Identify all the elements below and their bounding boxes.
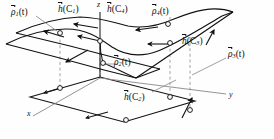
marker-rho1-base [58,86,63,91]
marker-rho1-upper [58,31,63,36]
axis-label-z: z [97,1,100,9]
y-axis-line [100,78,226,94]
label-rho-4: ρ4(t) [152,7,169,17]
x-axis-line [33,78,100,116]
marker-rho3-base [188,108,193,113]
leader-rho-1 [36,16,57,31]
label-h-c1: h(C1) [58,5,79,15]
label-h-c4: h(C4) [107,5,128,15]
axis-label-y: y [229,91,233,99]
diagram-canvas [0,0,274,139]
axis-label-x: x [27,110,31,118]
arrow-diagonal-down [66,50,88,62]
label-rho-3: ρ3(t) [228,50,245,60]
marker-center-upper [98,39,103,44]
label-h-c3: h(C3) [182,37,203,47]
label-h-c2: h(C2) [124,93,145,103]
marker-base-front [124,118,129,123]
label-rho-1: ρ1(t) [11,8,28,18]
marker-rho4-mid [168,41,173,46]
marker-rho3-mid [168,95,173,100]
upper-surface-curves [6,9,233,55]
arrow-h-c3 [206,30,214,45]
label-rho-2: ρ2(t) [114,58,131,68]
marker-rho4-upper [166,22,171,27]
arrow-h-c1 [74,24,98,28]
vector-field-diagram: x y z ρ1(t) ρ2(t) ρ3(t) ρ4(t) h(C1) h(C2… [0,0,274,139]
leader-h-c2 [152,80,176,92]
marker-rho2 [101,61,106,66]
leader-rho-3 [192,58,226,75]
